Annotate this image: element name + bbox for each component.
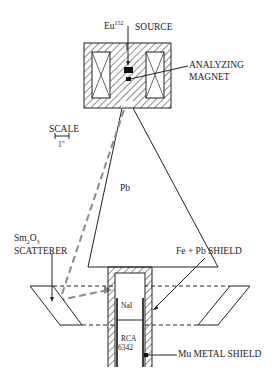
source-label: SOURCE	[135, 22, 172, 33]
mu-metal-shield-label: Mu METAL SHIELD	[178, 349, 261, 360]
pb-shield-cone	[88, 108, 218, 267]
pb-label: Pb	[120, 183, 130, 194]
apparatus-diagram	[0, 0, 280, 385]
analyzing-magnet-label-2: MAGNET	[189, 72, 230, 83]
scale-label: SCALE	[49, 124, 79, 135]
scatterer-label: SCATTERER	[14, 246, 67, 257]
rca-label-2: 6342	[118, 342, 133, 353]
nai-label: NaI	[121, 300, 132, 311]
scale-unit-label: 1"	[58, 139, 65, 150]
fe-pb-shield-label: Fe + Pb SHIELD	[176, 246, 242, 257]
source-isotope-label: Eu152	[104, 18, 124, 32]
analyzing-magnet-label-1: ANALYZING	[189, 60, 244, 71]
